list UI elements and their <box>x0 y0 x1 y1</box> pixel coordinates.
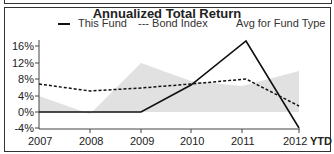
plot-area <box>0 0 334 154</box>
avg-area <box>39 63 299 114</box>
chart-panel: Annualized Total Return This Fund --- Bo… <box>0 0 334 154</box>
